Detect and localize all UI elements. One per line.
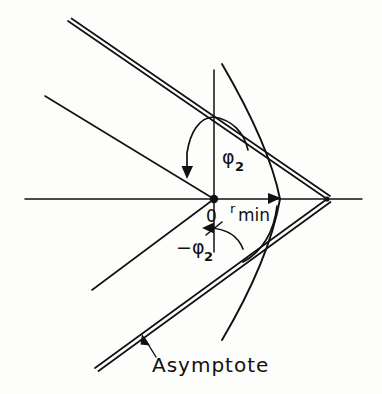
label-neg-phi2: −φ [176, 236, 204, 258]
label-asymptote: Asymptote [152, 353, 269, 377]
figure-canvas: φ 2 0 r min −φ 2 Asymptote [0, 0, 382, 394]
phi2-arrowhead [182, 166, 194, 179]
label-phi2-subscript: 2 [235, 159, 244, 174]
label-phi2: φ [222, 146, 235, 168]
label-origin: 0 [206, 206, 217, 226]
hyperbolic-orbit-diagram: φ 2 0 r min −φ 2 Asymptote [0, 0, 382, 394]
label-rmin-min: min [238, 205, 270, 225]
label-neg-phi2-subscript: 2 [204, 249, 213, 264]
origin-dot [210, 195, 218, 203]
asymptote-pointer-arrowhead [141, 334, 151, 346]
neg-phi2-curved-arrow [202, 222, 243, 249]
asymptote-crossing-dot [324, 196, 329, 201]
upper-asymptote-double-line [68, 19, 330, 200]
label-rmin-r: r [230, 201, 236, 216]
